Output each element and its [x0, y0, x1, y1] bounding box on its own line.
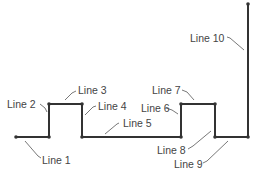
label-line-8: Line 8: [157, 144, 186, 156]
vertex: [80, 135, 84, 139]
leader-line-4: [85, 106, 96, 115]
vertex: [179, 135, 183, 139]
leader-line-7: [182, 90, 194, 100]
vertex: [14, 135, 18, 139]
vertex: [47, 102, 51, 106]
label-line-9: Line 9: [174, 158, 203, 170]
leader-line-3: [65, 91, 76, 100]
label-line-5: Line 5: [123, 117, 152, 129]
segment-diagram: Line 1 Line 2 Line 3 Line 4 Line 5 Line …: [0, 0, 254, 173]
label-line-3: Line 3: [78, 84, 107, 96]
leader-line-2: [40, 104, 47, 112]
vertex: [179, 102, 183, 106]
leader-line-9: [203, 141, 228, 163]
vertex: [246, 135, 250, 139]
vertex: [213, 102, 217, 106]
vertex: [213, 135, 217, 139]
label-line-1: Line 1: [42, 154, 71, 166]
label-line-10: Line 10: [190, 32, 225, 44]
leaders: [25, 37, 244, 163]
label-line-6: Line 6: [141, 102, 170, 114]
vertex: [246, 2, 250, 6]
vertex: [80, 102, 84, 106]
leader-line-5: [105, 123, 119, 134]
label-line-4: Line 4: [98, 100, 127, 112]
label-line-2: Line 2: [7, 98, 36, 110]
labels: Line 1 Line 2 Line 3 Line 4 Line 5 Line …: [7, 32, 225, 170]
leader-line-1: [25, 141, 41, 158]
label-line-7: Line 7: [152, 84, 181, 96]
leader-line-10: [227, 37, 244, 50]
vertex: [47, 135, 51, 139]
leader-line-8: [188, 131, 211, 149]
